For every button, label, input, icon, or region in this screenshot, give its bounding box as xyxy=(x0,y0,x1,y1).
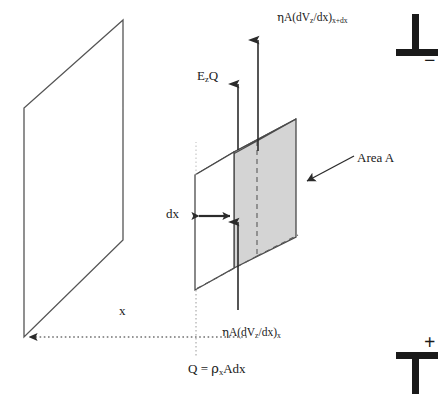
rho-symbol: ρ xyxy=(211,361,219,376)
bottom-electrode xyxy=(396,352,438,394)
diagram-canvas xyxy=(0,0,440,399)
charge-lead: Q = xyxy=(188,361,211,376)
electrode-top-sign: − xyxy=(424,50,435,70)
flux-top-label: ηA(dVz/dx)x+dx xyxy=(277,12,348,24)
flux-bottom-mid: /dx) xyxy=(258,326,277,338)
area-label: Area A xyxy=(357,151,394,164)
flux-bottom-sub-x: x xyxy=(277,331,281,340)
electric-force-tail: Q xyxy=(209,68,218,83)
electrode-bottom-sign: + xyxy=(424,332,435,352)
thickness-label: dx xyxy=(166,207,179,220)
flux-top-prefix: A(dV xyxy=(284,11,310,23)
flux-top-sub-xdx: x+dx xyxy=(332,16,348,25)
distance-label: x xyxy=(119,304,126,317)
box-shaded-face xyxy=(234,119,296,268)
physics-diagram-figure: ηA(dVz/dx)x+dx ηA(dVz/dx)x EzQ Area A dx… xyxy=(0,0,440,399)
box-front-face xyxy=(195,152,234,290)
eta-symbol-bottom: η xyxy=(222,325,229,339)
flux-top-mid: /dx) xyxy=(313,11,332,23)
electrode-plane xyxy=(24,20,123,337)
flux-bottom-prefix: A(dV xyxy=(229,326,255,338)
electric-force-main: E xyxy=(197,68,205,83)
area-pointer-arrow xyxy=(307,156,354,181)
flux-bottom-label: ηA(dVz/dx)x xyxy=(222,327,281,339)
electric-force-label: EzQ xyxy=(197,69,218,82)
charge-label: Q = ρxAdx xyxy=(188,362,246,375)
eta-symbol-top: η xyxy=(277,10,284,24)
charge-tail: Adx xyxy=(223,361,245,376)
